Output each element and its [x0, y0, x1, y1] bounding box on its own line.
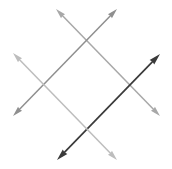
arrow-upper-right-to-lower-left-shaft	[17, 13, 113, 111]
arrow-upper-left-to-lower-right-shaft	[60, 13, 156, 111]
figure-canvas	[0, 0, 172, 169]
arrows-diagram	[0, 0, 172, 169]
arrows-group	[13, 9, 160, 160]
arrow-left-to-lower-right-shaft	[17, 57, 113, 155]
arrow-lower-left-to-upper-right-shaft	[62, 59, 156, 155]
